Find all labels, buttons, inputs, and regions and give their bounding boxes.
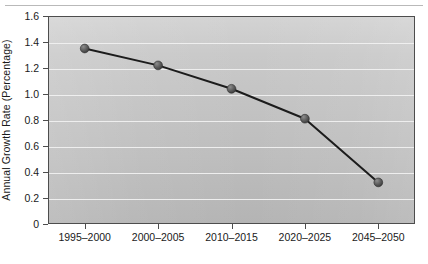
y-axis-tick: [43, 146, 48, 147]
y-axis-tick: [43, 16, 48, 17]
y-axis-tick: [43, 120, 48, 121]
x-axis-tick: [305, 224, 306, 229]
y-axis-tick: [43, 198, 48, 199]
x-axis-tick: [158, 224, 159, 229]
x-axis-tick-label: 2045–2050: [333, 232, 423, 244]
top-horizontal-rule: [5, 5, 423, 6]
gridline: [49, 69, 414, 70]
gridline: [49, 173, 414, 174]
gridline: [49, 95, 414, 96]
y-axis-title: Annual Growth Rate (Percentage): [0, 16, 14, 224]
y-axis-tick: [43, 224, 48, 225]
gridline: [49, 199, 414, 200]
gridline: [49, 43, 414, 44]
x-axis-tick: [232, 224, 233, 229]
plot-area: [48, 16, 415, 224]
gridline: [49, 121, 414, 122]
y-axis-tick: [43, 94, 48, 95]
y-axis-tick: [43, 68, 48, 69]
plot-background-sheen: [49, 17, 414, 223]
x-axis-tick: [378, 224, 379, 229]
y-axis-tick: [43, 172, 48, 173]
gridline: [49, 147, 414, 148]
x-axis-tick: [85, 224, 86, 229]
y-axis-tick: [43, 42, 48, 43]
figure-container: 00.20.40.60.81.01.21.41.6 1995–20002000–…: [0, 0, 428, 264]
